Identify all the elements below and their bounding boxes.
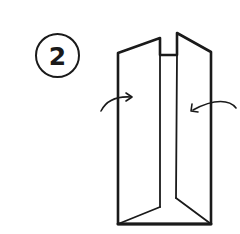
left-bottom-diagonal — [118, 207, 160, 224]
right-fold-arrow-icon — [193, 102, 236, 111]
left-fold-arrow-icon — [101, 97, 131, 111]
folded-paper-illustration — [0, 0, 240, 234]
paper-outline — [118, 33, 211, 224]
right-bottom-diagonal — [176, 198, 211, 224]
right-inner-fold-line — [176, 55, 177, 198]
